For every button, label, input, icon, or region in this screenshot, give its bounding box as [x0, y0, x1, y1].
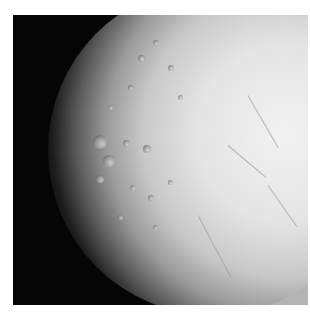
crater: [143, 145, 151, 153]
crater: [178, 95, 183, 100]
crater: [123, 140, 130, 147]
crater: [148, 195, 154, 201]
crater: [118, 215, 123, 220]
crater: [168, 180, 173, 185]
surface-fracture: [228, 145, 267, 178]
crater: [103, 155, 115, 167]
surface-fracture: [268, 185, 297, 227]
crater: [93, 135, 107, 149]
crater: [130, 185, 136, 191]
moon-disk: [48, 15, 308, 305]
crater: [108, 105, 113, 110]
crater: [153, 40, 159, 46]
moon-photograph: [13, 15, 308, 305]
surface-fracture: [198, 215, 232, 277]
crater: [128, 85, 134, 91]
crater: [96, 175, 104, 183]
surface-fracture: [248, 95, 279, 147]
crater: [168, 65, 174, 71]
crater: [153, 225, 158, 230]
crater: [138, 55, 145, 62]
